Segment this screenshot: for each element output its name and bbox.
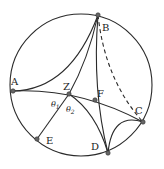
- label-F: F: [97, 88, 104, 99]
- label-E: E: [46, 135, 53, 146]
- geodesic-AB: [13, 15, 98, 91]
- point-C: [141, 120, 145, 124]
- geodesic-BD: [96, 15, 108, 153]
- label-C: C: [135, 105, 143, 116]
- point-D: [106, 151, 110, 155]
- boundary-circle: [10, 14, 152, 156]
- angle-theta1: θ1: [51, 100, 60, 110]
- label-B: B: [102, 22, 109, 33]
- point-E: [35, 137, 39, 141]
- hyperbolic-disk-diagram: A B C D E F Z θ1 θ2: [0, 0, 164, 169]
- point-Z: [67, 92, 71, 96]
- point-B: [96, 13, 100, 17]
- label-A: A: [10, 76, 19, 87]
- angle-theta2: θ2: [66, 105, 75, 115]
- label-Z: Z: [63, 81, 70, 92]
- point-A: [11, 89, 15, 93]
- label-D: D: [91, 141, 99, 152]
